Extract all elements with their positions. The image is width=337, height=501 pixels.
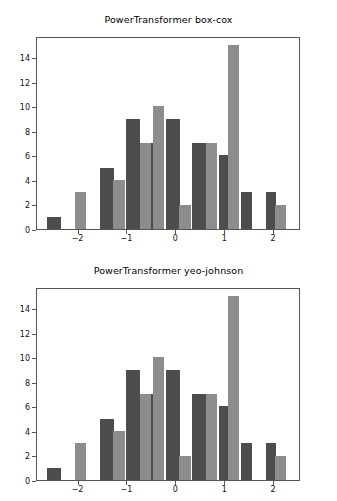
y-tick-label: 2 bbox=[0, 201, 30, 210]
y-tick-mark bbox=[32, 383, 36, 384]
histogram-bar-dark bbox=[241, 443, 252, 480]
y-tick-mark bbox=[32, 309, 36, 310]
histogram-bar-light bbox=[140, 394, 151, 480]
x-tick-mark bbox=[224, 481, 225, 485]
y-tick-mark bbox=[32, 334, 36, 335]
histogram-bar-dark bbox=[47, 217, 61, 229]
bars-container bbox=[37, 38, 299, 229]
histogram-bar-dark bbox=[166, 119, 180, 229]
y-tick-mark bbox=[32, 230, 36, 231]
y-tick-mark bbox=[32, 407, 36, 408]
y-tick-mark bbox=[32, 107, 36, 108]
y-tick-mark bbox=[32, 432, 36, 433]
histogram-bar-light bbox=[179, 456, 190, 481]
y-tick-label: 8 bbox=[0, 378, 30, 387]
y-tick-label: 0 bbox=[0, 477, 30, 486]
histogram-bar-light bbox=[153, 357, 164, 480]
y-tick-label: 0 bbox=[0, 226, 30, 235]
histogram-bar-dark bbox=[192, 143, 206, 229]
x-tick-label: 2 bbox=[258, 234, 288, 243]
y-tick-mark bbox=[32, 205, 36, 206]
histogram-bar-light bbox=[75, 192, 86, 229]
x-tick-mark bbox=[78, 481, 79, 485]
y-tick-mark bbox=[32, 156, 36, 157]
x-tick-label: 1 bbox=[209, 234, 239, 243]
y-tick-label: 12 bbox=[0, 78, 30, 87]
y-tick-label: 8 bbox=[0, 127, 30, 136]
y-tick-mark bbox=[32, 358, 36, 359]
subplot-yeo-johnson: PowerTransformer yeo-johnson 02468101214… bbox=[0, 251, 337, 501]
histogram-bar-light bbox=[206, 143, 217, 229]
y-tick-label: 4 bbox=[0, 427, 30, 436]
y-tick-mark bbox=[32, 58, 36, 59]
histogram-bar-dark bbox=[166, 370, 180, 480]
x-tick-mark bbox=[175, 481, 176, 485]
y-tick-mark bbox=[32, 456, 36, 457]
histogram-bar-light bbox=[113, 431, 124, 480]
x-tick-mark bbox=[175, 230, 176, 234]
histogram-bar-dark bbox=[100, 419, 114, 480]
histogram-bar-light bbox=[75, 443, 86, 480]
histogram-bar-light bbox=[228, 296, 239, 480]
y-tick-label: 6 bbox=[0, 403, 30, 412]
x-tick-label: 2 bbox=[258, 485, 288, 494]
x-tick-mark bbox=[273, 230, 274, 234]
y-tick-mark bbox=[32, 83, 36, 84]
y-tick-label: 10 bbox=[0, 354, 30, 363]
bars-container bbox=[37, 289, 299, 480]
y-tick-label: 12 bbox=[0, 329, 30, 338]
x-tick-label: −2 bbox=[63, 234, 93, 243]
x-tick-label: −1 bbox=[111, 234, 141, 243]
x-tick-label: 0 bbox=[160, 485, 190, 494]
x-tick-label: −1 bbox=[111, 485, 141, 494]
y-tick-label: 14 bbox=[0, 305, 30, 314]
histogram-bar-light bbox=[113, 180, 124, 229]
y-tick-label: 2 bbox=[0, 452, 30, 461]
subplot-box-cox: PowerTransformer box-cox 02468101214−2−1… bbox=[0, 0, 337, 250]
y-tick-label: 14 bbox=[0, 54, 30, 63]
histogram-bar-dark bbox=[126, 119, 140, 229]
histogram-bar-light bbox=[179, 205, 190, 230]
histogram-bar-dark bbox=[241, 192, 252, 229]
histogram-bar-dark bbox=[192, 394, 206, 480]
histogram-bar-dark bbox=[126, 370, 140, 480]
matplotlib-figure: PowerTransformer box-cox 02468101214−2−1… bbox=[0, 0, 337, 501]
histogram-bar-light bbox=[153, 106, 164, 229]
x-tick-label: −2 bbox=[63, 485, 93, 494]
x-tick-label: 1 bbox=[209, 485, 239, 494]
plot-area-yeo-johnson bbox=[36, 288, 300, 481]
x-tick-mark bbox=[126, 230, 127, 234]
y-tick-mark bbox=[32, 481, 36, 482]
histogram-bar-light bbox=[206, 394, 217, 480]
histogram-bar-dark bbox=[100, 168, 114, 229]
plot-area-box-cox bbox=[36, 37, 300, 230]
histogram-bar-light bbox=[275, 205, 286, 230]
chart-title-box-cox: PowerTransformer box-cox bbox=[0, 14, 337, 25]
y-tick-mark bbox=[32, 181, 36, 182]
x-tick-mark bbox=[78, 230, 79, 234]
y-tick-label: 4 bbox=[0, 176, 30, 185]
y-tick-label: 6 bbox=[0, 152, 30, 161]
histogram-bar-light bbox=[275, 456, 286, 481]
x-tick-label: 0 bbox=[160, 234, 190, 243]
x-tick-mark bbox=[126, 481, 127, 485]
y-tick-label: 10 bbox=[0, 103, 30, 112]
histogram-bar-light bbox=[228, 45, 239, 229]
x-tick-mark bbox=[224, 230, 225, 234]
chart-title-yeo-johnson: PowerTransformer yeo-johnson bbox=[0, 265, 337, 276]
x-tick-mark bbox=[273, 481, 274, 485]
histogram-bar-dark bbox=[47, 468, 61, 480]
y-tick-mark bbox=[32, 132, 36, 133]
histogram-bar-light bbox=[140, 143, 151, 229]
